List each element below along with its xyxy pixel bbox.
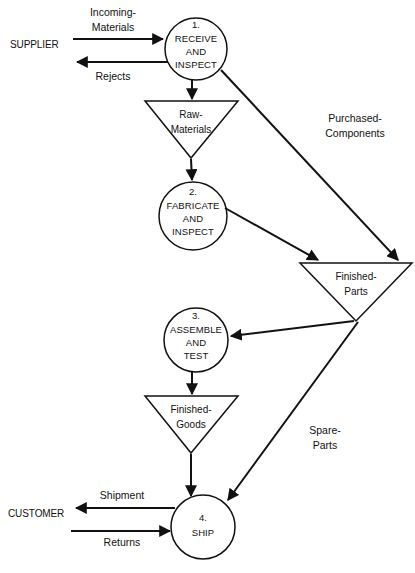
process-4-number: 4.: [199, 512, 207, 523]
process-1-line-1: RECEIVE: [175, 33, 217, 44]
datastore-finished-parts-line-2: Parts: [344, 286, 367, 297]
flow-label-purchased-components-line-1: Purchased-: [328, 112, 382, 124]
process-2-line-2: AND: [183, 213, 203, 224]
process-1-line-2: AND: [186, 46, 206, 57]
flow-label-purchased-components-line-2: Components: [325, 127, 385, 139]
process-3-number: 3.: [192, 310, 200, 321]
datastore-finished-goods-line-2: Goods: [176, 419, 205, 430]
flow-label-spare-parts-line-1: Spare-: [309, 424, 341, 436]
flow-label-incoming-materials-line-1: Incoming-: [90, 6, 137, 18]
flow-arrow-spare-parts: [228, 322, 358, 500]
datastore-raw-materials-line-1: Raw-: [179, 109, 202, 120]
flow-label-rejects: Rejects: [95, 70, 130, 82]
flow-arrow-purchased-components: [221, 70, 398, 260]
flow-label-returns: Returns: [104, 536, 141, 548]
diagram-svg: SUPPLIER CUSTOMER 1. RECEIVE AND INSPECT…: [0, 0, 415, 573]
flow-label-incoming-materials-line-2: Materials: [92, 21, 135, 33]
datastore-finished-parts-line-1: Finished-: [335, 271, 376, 282]
flow-arrow-raw-materials-to-p2: [191, 159, 192, 180]
process-2-line-1: FABRICATE: [167, 200, 220, 211]
flow-arrow-p2-to-finished-parts: [225, 208, 318, 260]
process-1-line-3: INSPECT: [175, 59, 217, 70]
external-entity-customer: CUSTOMER: [8, 508, 64, 519]
flow-label-spare-parts-line-2: Parts: [313, 439, 338, 451]
flow-arrow-finished-parts-to-p3: [231, 321, 354, 336]
datastore-raw-materials-line-2: Materials: [171, 124, 212, 135]
process-4-line-1: SHIP: [192, 527, 215, 538]
dfd-diagram-canvas: SUPPLIER CUSTOMER 1. RECEIVE AND INSPECT…: [0, 0, 415, 573]
process-2-line-3: INSPECT: [172, 226, 214, 237]
process-3-line-2: AND: [186, 337, 206, 348]
external-entity-supplier: SUPPLIER: [10, 39, 59, 50]
datastore-finished-goods-line-1: Finished-: [170, 404, 211, 415]
process-2-number: 2.: [189, 186, 197, 197]
process-3-line-1: ASSEMBLE: [170, 324, 222, 335]
flow-label-shipment: Shipment: [100, 489, 144, 501]
process-1-number: 1.: [192, 19, 200, 30]
process-3-line-3: TEST: [184, 350, 209, 361]
